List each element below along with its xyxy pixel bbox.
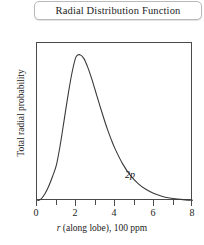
x-axis-label-units: (along lobe), 100 ppm (60, 223, 147, 233)
x-tick (153, 200, 154, 206)
x-tick-label: 8 (190, 207, 195, 218)
x-tick-label: 6 (151, 207, 156, 218)
x-axis-ticks (36, 200, 192, 207)
x-tick (95, 200, 96, 205)
chart-title-bar: Radial Distribution Function (34, 1, 202, 20)
x-tick-label: 0 (34, 207, 39, 218)
x-tick-label: 4 (112, 207, 117, 218)
plot-area: 2p (36, 42, 192, 200)
x-tick (191, 200, 192, 206)
x-tick (173, 200, 174, 205)
y-axis-label: Total radial probability (16, 38, 26, 188)
x-tick (75, 200, 76, 206)
x-tick (114, 200, 115, 206)
x-tick (56, 200, 57, 205)
x-tick-label: 2 (73, 207, 78, 218)
x-tick (134, 200, 135, 205)
page-title: Radial Distribution Function (56, 5, 181, 16)
x-tick (36, 200, 37, 206)
chart-figure: Total radial probability 2p 02468 r (alo… (0, 24, 204, 245)
orbital-annotation-2p: 2p (125, 169, 135, 180)
radial-distribution-curve (37, 43, 193, 201)
x-axis-tick-labels: 02468 (36, 207, 192, 221)
x-axis-label: r (along lobe), 100 ppm (0, 223, 204, 233)
